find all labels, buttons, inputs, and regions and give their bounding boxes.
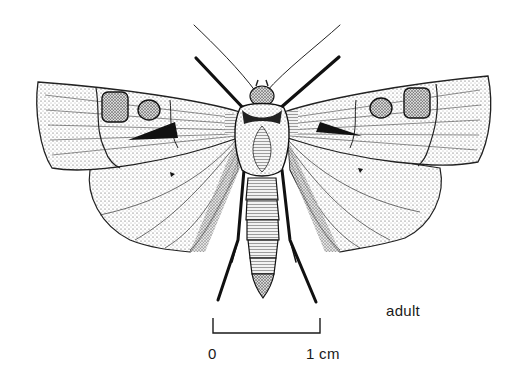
moth-illustration	[0, 0, 511, 383]
body	[235, 80, 289, 176]
stage-label: adult	[386, 302, 420, 319]
scale-bar	[213, 318, 320, 333]
abdomen	[246, 178, 279, 298]
scale-end-label: 1 cm	[306, 345, 340, 362]
scale-start-label: 0	[208, 345, 217, 362]
